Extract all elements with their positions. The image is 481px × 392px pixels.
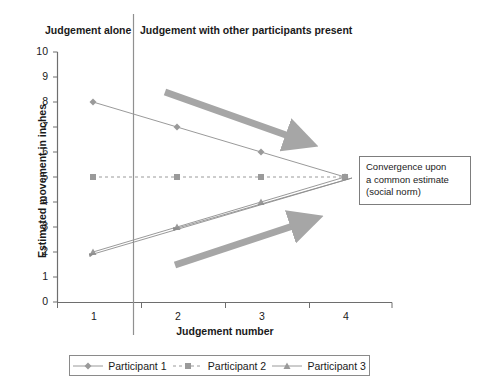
chart-legend: Participant 1 Participant 2 Participant … <box>69 355 370 376</box>
convergence-callout-box: Convergence upon a common estimate (soci… <box>359 156 471 205</box>
y-axis-ticks <box>53 52 58 302</box>
legend-key-participant-3-icon <box>272 361 302 371</box>
callout-line-2: a common estimate <box>366 174 465 187</box>
chart-figure: Judgement alone Judgement with other par… <box>0 0 481 392</box>
downward-trend-arrow <box>165 92 300 140</box>
legend-item-participant-3: Participant 3 <box>272 360 365 372</box>
upward-trend-arrow <box>175 222 305 265</box>
legend-label-participant-1: Participant 1 <box>108 360 166 372</box>
marker-square <box>90 174 96 180</box>
legend-item-participant-1: Participant 1 <box>73 360 166 372</box>
callout-line-1: Convergence upon <box>366 161 465 174</box>
legend-label-participant-2: Participant 2 <box>208 360 266 372</box>
x-axis-ticks <box>58 303 393 309</box>
marker-square <box>174 174 180 180</box>
marker-diamond <box>90 99 97 106</box>
marker-diamond <box>258 149 265 156</box>
legend-item-participant-2: Participant 2 <box>173 360 266 372</box>
series-line-participant-3 <box>93 177 345 252</box>
callout-leader-line-lower <box>174 178 352 229</box>
marker-square <box>258 174 264 180</box>
callout-line-3: (social norm) <box>366 186 465 199</box>
marker-diamond <box>174 124 181 131</box>
legend-key-participant-1-icon <box>73 361 103 371</box>
legend-key-participant-2-icon <box>173 361 203 371</box>
legend-label-participant-3: Participant 3 <box>307 360 365 372</box>
